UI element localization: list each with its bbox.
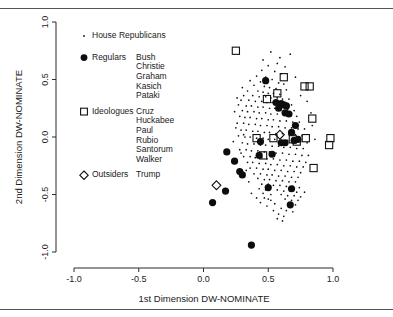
data-point-dot xyxy=(258,163,260,165)
data-point-dot xyxy=(274,170,276,172)
data-point-dot xyxy=(238,104,240,106)
data-point-dot xyxy=(262,168,264,170)
data-point-dot xyxy=(242,87,244,89)
data-point-dot xyxy=(235,127,237,129)
x-tick-label: -1.0 xyxy=(66,274,82,284)
data-point-square xyxy=(327,135,334,142)
data-point-dot xyxy=(266,125,268,127)
data-point-dot xyxy=(260,202,262,204)
data-point-circle xyxy=(285,110,292,117)
data-point-dot xyxy=(262,193,264,195)
data-point-dot xyxy=(296,115,298,117)
data-point-dot xyxy=(269,87,271,89)
data-point-dot xyxy=(266,205,268,207)
data-point-dot xyxy=(276,218,278,220)
data-point-dot xyxy=(256,197,258,199)
data-point-dot xyxy=(258,112,260,114)
data-point-dot xyxy=(296,191,298,193)
data-point-dot xyxy=(239,149,241,151)
data-point-square xyxy=(306,83,313,90)
series-outsiders xyxy=(212,130,284,189)
data-point-dot xyxy=(269,132,271,134)
data-point-dot xyxy=(276,164,278,166)
figure-container: -1.0-0.50.00.51.0 -1.0-0.50.00.51.0 Hous… xyxy=(0,0,393,317)
data-point-dot xyxy=(297,199,299,201)
data-point-dot xyxy=(262,91,264,93)
data-point-dot xyxy=(265,112,267,114)
data-point-dot xyxy=(273,184,275,186)
data-point-dot xyxy=(249,117,251,119)
data-point-dot xyxy=(276,189,278,191)
data-point-dot xyxy=(282,180,284,182)
data-point-dot xyxy=(271,79,273,81)
data-point-dot xyxy=(234,111,236,113)
data-point-dot xyxy=(311,125,313,127)
data-point-dot xyxy=(279,184,281,186)
data-point-circle xyxy=(275,105,282,112)
data-point-dot xyxy=(243,122,245,124)
data-point-dot xyxy=(287,195,289,197)
x-axis-title: 1st Dimension DW-NOMINATE xyxy=(138,293,269,304)
data-point-dot xyxy=(271,126,273,128)
data-point-dot xyxy=(288,98,290,100)
legend-member-name: Rubio xyxy=(136,135,158,145)
data-point-square xyxy=(263,95,270,102)
data-point-dot xyxy=(262,59,264,61)
data-point-dot xyxy=(295,153,297,155)
data-point-dot xyxy=(266,174,268,176)
legend-member-name: Walker xyxy=(136,154,162,164)
data-point-diamond xyxy=(212,181,221,190)
data-point-circle xyxy=(223,148,230,155)
data-point-dot xyxy=(300,95,302,97)
data-point-dot xyxy=(280,207,282,209)
legend-label: Ideologues xyxy=(92,106,134,116)
data-point-dot xyxy=(283,83,285,85)
y-tick-label: 1.0 xyxy=(40,16,50,29)
data-point-dot xyxy=(270,113,272,115)
data-point-dot xyxy=(273,210,275,212)
data-point-dot xyxy=(267,119,269,121)
data-point-dot xyxy=(253,111,255,113)
data-point-dot xyxy=(236,122,238,124)
data-point-dot xyxy=(276,113,278,115)
legend-member-name: Bush xyxy=(136,52,156,62)
data-point-dot xyxy=(273,158,275,160)
data-point-dot xyxy=(257,150,259,152)
data-point-dot xyxy=(248,99,250,101)
data-point-dot xyxy=(289,147,291,149)
data-point-square xyxy=(326,141,333,148)
data-point-dot xyxy=(261,183,263,185)
data-point-dot xyxy=(254,157,256,159)
data-point-dot xyxy=(251,150,253,152)
data-point-dot xyxy=(283,165,285,167)
data-point-dot xyxy=(270,199,272,201)
data-point-circle xyxy=(248,242,255,249)
data-point-dot xyxy=(262,106,264,108)
data-point-dot xyxy=(273,119,275,121)
data-point-square xyxy=(232,47,239,54)
data-point-dot xyxy=(257,90,259,92)
data-point-circle xyxy=(239,171,246,178)
data-point-dot xyxy=(248,181,250,183)
data-point-dot xyxy=(286,186,288,188)
data-point-circle xyxy=(288,185,295,192)
legend-label: House Republicans xyxy=(92,30,166,40)
data-point-dot xyxy=(254,101,256,103)
data-point-square xyxy=(280,74,287,81)
data-point-circle xyxy=(281,139,288,146)
data-point-dot xyxy=(283,216,285,218)
data-point-dot xyxy=(280,194,282,196)
data-point-dot xyxy=(293,195,295,197)
data-point-dot xyxy=(304,191,306,193)
data-point-circle xyxy=(222,187,229,194)
data-point-dot xyxy=(269,107,271,109)
data-point-dot xyxy=(247,111,249,113)
data-point-dot xyxy=(288,181,290,183)
data-point-dot xyxy=(274,138,276,140)
data-point-dot xyxy=(284,127,286,129)
data-point-dot xyxy=(240,152,242,154)
series-house-republicans xyxy=(232,51,315,222)
data-point-dot xyxy=(244,136,246,138)
legend-member-name: Pataki xyxy=(136,90,160,100)
data-point-dot xyxy=(286,159,288,161)
